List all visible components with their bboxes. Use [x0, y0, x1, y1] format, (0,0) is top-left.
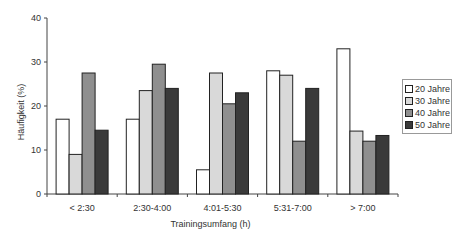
x-tick-label: 4:01-5:30 — [203, 203, 241, 213]
legend-item: 50 Jahre — [405, 119, 449, 131]
bar — [306, 88, 319, 194]
y-tick-label: 40 — [31, 13, 41, 23]
legend-swatch-icon — [405, 109, 413, 117]
bar — [152, 64, 165, 194]
legend-item: 40 Jahre — [405, 107, 449, 119]
bar — [223, 104, 236, 194]
bar — [165, 88, 178, 194]
bar — [56, 119, 69, 194]
x-axis-title: Trainingsumfang (h) — [170, 219, 250, 229]
legend-label: 50 Jahre — [415, 120, 450, 130]
bar — [376, 135, 389, 194]
y-tick-label: 30 — [31, 57, 41, 67]
legend-swatch-icon — [405, 97, 413, 105]
bar — [126, 119, 139, 194]
bar — [82, 73, 95, 194]
x-tick-label: 5:31-7:00 — [274, 203, 312, 213]
legend-label: 30 Jahre — [415, 96, 450, 106]
legend-item: 20 Jahre — [405, 83, 449, 95]
y-tick-label: 10 — [31, 145, 41, 155]
bar — [350, 131, 363, 194]
bar — [267, 71, 280, 194]
bar — [363, 141, 376, 194]
chart-legend: 20 Jahre30 Jahre40 Jahre50 Jahre — [402, 79, 452, 134]
bar — [197, 170, 210, 194]
y-axis-title: Häufigkeit (%) — [16, 84, 26, 141]
y-tick-label: 20 — [31, 101, 41, 111]
legend-label: 40 Jahre — [415, 108, 450, 118]
bar — [337, 49, 350, 194]
bar — [95, 130, 108, 194]
bar-chart: 010203040< 2:302:30-4:004:01-5:305:31-7:… — [0, 0, 471, 235]
bar — [69, 154, 82, 194]
x-tick-label: > 7:00 — [350, 203, 375, 213]
y-tick-label: 0 — [36, 189, 41, 199]
bar — [236, 93, 249, 194]
bar — [293, 141, 306, 194]
x-tick-label: 2:30-4:00 — [133, 203, 171, 213]
legend-swatch-icon — [405, 121, 413, 129]
legend-item: 30 Jahre — [405, 95, 449, 107]
bar — [139, 91, 152, 194]
x-tick-label: < 2:30 — [69, 203, 94, 213]
bar — [280, 75, 293, 194]
legend-label: 20 Jahre — [415, 84, 450, 94]
bar — [210, 73, 223, 194]
legend-swatch-icon — [405, 85, 413, 93]
